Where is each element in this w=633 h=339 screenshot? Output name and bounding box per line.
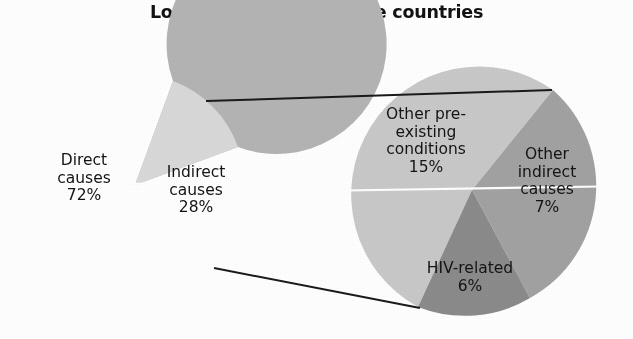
label-otherind-line2: indirect — [506, 164, 588, 182]
label-otherpre-line3: conditions — [366, 141, 486, 159]
label-indirect-line1: Indirect — [148, 164, 244, 182]
label-direct-line1: Direct — [38, 152, 130, 170]
label-otherpre-line1: Other pre- — [366, 106, 486, 124]
label-direct-line2: causes — [38, 170, 130, 188]
label-otherind-value: 7% — [506, 199, 588, 217]
label-hiv-line1: HIV-related — [415, 260, 525, 278]
label-indirect-line2: causes — [148, 182, 244, 200]
label-otherpre-value: 15% — [366, 159, 486, 177]
label-direct-value: 72% — [38, 187, 130, 205]
label-indirect-causes: Indirect causes 28% — [148, 164, 244, 217]
label-indirect-value: 28% — [148, 199, 244, 217]
label-other-indirect-causes: Other indirect causes 7% — [506, 146, 588, 216]
label-direct-causes: Direct causes 72% — [38, 152, 130, 205]
label-otherind-line1: Other — [506, 146, 588, 164]
label-otherind-line3: causes — [506, 181, 588, 199]
label-other-pre-existing-conditions: Other pre- existing conditions 15% — [366, 106, 486, 176]
label-hiv-value: 6% — [415, 278, 525, 296]
label-otherpre-line2: existing — [366, 124, 486, 142]
figure-pie-breakdown: Low- and middle-income countries Dir — [0, 0, 633, 339]
label-hiv-related: HIV-related 6% — [415, 260, 525, 295]
